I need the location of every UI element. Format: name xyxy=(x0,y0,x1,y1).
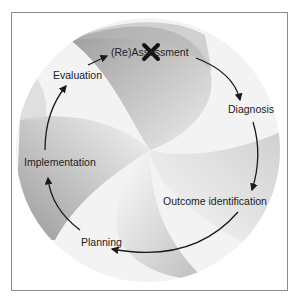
stage-implementation: Implementation xyxy=(24,156,96,168)
stage-diagnosis: Diagnosis xyxy=(228,103,274,115)
stage-planning: Planning xyxy=(81,236,122,248)
stage-outcome-identification: Outcome identification xyxy=(163,195,267,207)
stage-evaluation: Evaluation xyxy=(53,69,102,81)
stage-reassessment: (Re)Assessment xyxy=(111,46,189,58)
